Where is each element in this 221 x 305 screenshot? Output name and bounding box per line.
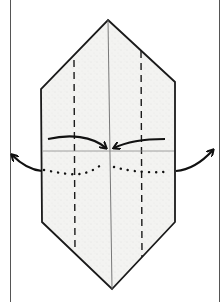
outward-right-arrow-icon <box>176 150 213 171</box>
diagram-svg <box>0 0 221 305</box>
outward-left-arrow-icon <box>12 155 42 171</box>
paper-shape <box>41 20 175 289</box>
origami-diagram <box>0 0 221 305</box>
